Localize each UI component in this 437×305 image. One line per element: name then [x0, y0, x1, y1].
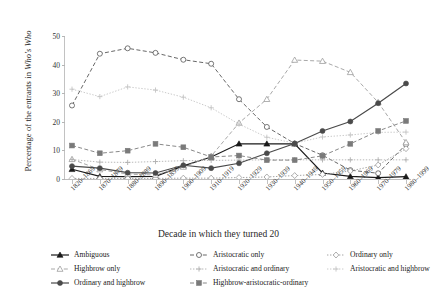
data-point-filled-square [125, 148, 130, 153]
y-tick-label: 10 [38, 146, 60, 155]
y-axis-title-italic: Who's Who [23, 30, 33, 69]
legend-label: Ordinary only [350, 250, 393, 260]
data-point-plus [153, 87, 158, 92]
data-point-filled-square [153, 141, 158, 146]
data-point-filled-circle [237, 161, 242, 166]
data-point-plus [333, 266, 338, 271]
y-tick-mark [62, 150, 65, 151]
legend-marker-plus-icon [189, 264, 209, 274]
data-point-open-triangle [347, 69, 353, 74]
data-point-open-diamond [320, 171, 326, 177]
data-point-plus [97, 94, 102, 99]
data-point-plus [153, 159, 158, 164]
data-point-open-circle [97, 51, 102, 56]
data-point-open-diamond [181, 175, 187, 179]
legend-label: Aristocratic only [213, 250, 264, 260]
x-axis-title: Decade in which they turned 20 [0, 229, 437, 239]
data-point-filled-circle [153, 170, 158, 175]
data-point-open-diamond [403, 146, 409, 152]
data-point-plus [236, 121, 241, 126]
data-point-open-circle [197, 253, 202, 258]
data-point-filled-square [181, 145, 186, 150]
legend-item-aristocratic-and-highbrow[interactable]: Aristocratic and highbrow [326, 264, 430, 274]
data-point-filled-square [320, 153, 325, 158]
legend-item-ordinary-only[interactable]: Ordinary only [326, 250, 393, 260]
y-axis-title-plain: Percentage of the entrants in [23, 70, 33, 172]
series-line [72, 87, 406, 143]
data-point-plus [376, 157, 381, 162]
data-point-filled-square [292, 158, 297, 163]
data-point-filled-circle [70, 164, 75, 169]
data-point-filled-square [209, 155, 214, 160]
data-point-filled-circle [58, 281, 63, 286]
y-tick-mark [62, 122, 65, 123]
legend-label: Aristocratic and highbrow [350, 264, 430, 274]
legend-item-ordinary-and-highbrow[interactable]: Ordinary and highbrow [50, 278, 145, 288]
data-point-plus [264, 135, 269, 140]
data-point-plus [348, 132, 353, 137]
data-point-open-triangle [403, 139, 409, 144]
y-axis-line [64, 36, 65, 180]
data-point-filled-square [404, 119, 409, 124]
data-point-plus [348, 157, 353, 162]
legend-item-highbrow-aristocratic-ordinary[interactable]: Highbrow-aristocratic-ordinary [189, 278, 308, 288]
data-point-plus [209, 105, 214, 110]
data-point-filled-square [376, 129, 381, 134]
data-point-open-diamond [69, 175, 75, 179]
data-point-open-diamond [292, 173, 298, 179]
data-point-open-diamond [264, 174, 270, 179]
data-point-filled-square [97, 151, 102, 156]
legend-item-highbrow-only[interactable]: Highbrow only [50, 264, 120, 274]
data-point-filled-circle [292, 141, 297, 146]
data-point-filled-square [264, 158, 269, 163]
data-point-open-circle [153, 50, 158, 55]
data-point-plus [125, 84, 130, 89]
data-point-filled-circle [97, 166, 102, 171]
y-tick-label: 0 [38, 175, 60, 184]
legend-label: Highbrow-aristocratic-ordinary [213, 278, 308, 288]
data-point-filled-square [70, 143, 75, 148]
legend-marker-open-triangle-icon [50, 264, 70, 274]
data-point-plus [97, 160, 102, 165]
y-tick-mark [62, 179, 65, 180]
data-point-filled-circle [376, 101, 381, 106]
data-point-open-circle [264, 124, 269, 129]
data-point-filled-square [237, 153, 242, 158]
data-point-filled-circle [348, 119, 353, 124]
series-5 [69, 84, 408, 146]
data-point-plus [69, 87, 74, 92]
data-point-open-circle [70, 103, 75, 108]
legend-marker-open-diamond-icon [326, 250, 346, 260]
series-svg [68, 36, 410, 179]
y-tick-label: 50 [38, 32, 60, 41]
data-point-filled-circle [320, 128, 325, 133]
legend-item-aristocratic-and-ordinary[interactable]: Aristocratic and ordinary [189, 264, 289, 274]
data-point-open-diamond [375, 162, 381, 168]
legend-label: Ambiguous [74, 250, 109, 260]
chart-container: Percentage of the entrants in Who's Who … [0, 0, 437, 305]
legend-item-aristocratic-only[interactable]: Aristocratic only [189, 250, 264, 260]
data-point-open-diamond [333, 252, 339, 258]
data-point-open-circle [125, 46, 130, 51]
data-point-filled-circle [404, 81, 409, 86]
data-point-filled-circle [181, 163, 186, 168]
data-point-plus [181, 95, 186, 100]
data-point-open-circle [209, 61, 214, 66]
data-point-filled-square [348, 141, 353, 146]
data-point-plus [403, 129, 408, 134]
data-point-open-triangle [292, 57, 298, 62]
data-point-filled-square [197, 281, 202, 286]
data-point-open-diamond [236, 175, 242, 179]
y-tick-label: 20 [38, 118, 60, 127]
data-point-filled-circle [125, 170, 130, 175]
y-tick-mark [62, 65, 65, 66]
legend-label: Highbrow only [74, 264, 120, 274]
plot-area [68, 36, 410, 179]
legend-marker-plus-icon [326, 264, 346, 274]
data-point-open-circle [181, 57, 186, 62]
series-6 [70, 81, 409, 176]
chart-legend: AmbiguousAristocratic onlyOrdinary onlyH… [50, 250, 437, 302]
data-point-filled-circle [264, 151, 269, 156]
legend-item-ambiguous[interactable]: Ambiguous [50, 250, 109, 260]
data-point-filled-circle [209, 166, 214, 171]
